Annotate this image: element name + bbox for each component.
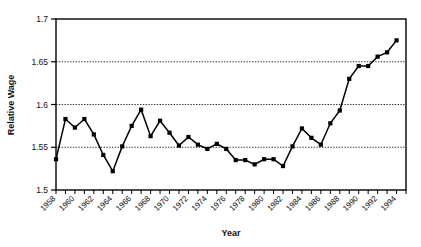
data-point-1987: [328, 121, 332, 125]
ytick-label-0: 1.5: [36, 185, 48, 195]
data-point-1985: [309, 136, 313, 140]
data-point-1990: [357, 64, 361, 68]
relative-wage-line-chart: 1.7 1.65 1.6 1.55 1.5 195819601962196419…: [0, 0, 421, 247]
data-point-1983: [290, 144, 294, 148]
x-tick-labels: 1958196019621964196619681970197219741976…: [38, 194, 398, 213]
chart-figure: 1.7 1.65 1.6 1.55 1.5 195819601962196419…: [0, 0, 421, 247]
data-point-1960: [73, 125, 77, 129]
data-point-1972: [186, 135, 190, 139]
xtick-label-1: 1960: [57, 194, 76, 213]
ytick-label-4: 1.7: [36, 14, 48, 24]
data-point-1973: [196, 143, 200, 147]
data-point-1971: [177, 143, 181, 147]
data-point-1982: [281, 164, 285, 168]
xtick-label-2: 1962: [76, 194, 95, 213]
data-point-1979: [253, 162, 257, 166]
xtick-label-10: 1978: [228, 194, 247, 213]
data-point-1989: [347, 77, 351, 81]
data-point-1958: [54, 157, 58, 161]
xtick-label-8: 1974: [190, 194, 209, 213]
data-point-1981: [271, 157, 275, 161]
data-point-1975: [215, 142, 219, 146]
y-axis-title: Relative Wage: [6, 75, 16, 136]
data-point-1959: [63, 117, 67, 121]
xtick-label-12: 1982: [265, 194, 284, 213]
data-point-1991: [366, 64, 370, 68]
ytick-label-1: 1.55: [31, 142, 48, 152]
y-tick-labels: 1.7 1.65 1.6 1.55 1.5: [31, 14, 48, 195]
data-point-1984: [300, 126, 304, 130]
data-point-1986: [319, 143, 323, 147]
data-point-1968: [148, 134, 152, 138]
ytick-label-3: 1.65: [31, 57, 48, 67]
xtick-label-6: 1970: [152, 194, 171, 213]
y-axis-ticks: [51, 19, 56, 190]
data-point-1992: [376, 55, 380, 59]
xtick-label-18: 1994: [379, 194, 398, 213]
data-point-1967: [139, 108, 143, 112]
data-point-1964: [111, 169, 115, 173]
data-point-1961: [82, 117, 86, 121]
xtick-label-7: 1972: [171, 194, 190, 213]
x-axis-title: Year: [221, 228, 241, 238]
data-point-1980: [262, 157, 266, 161]
xtick-label-5: 1968: [133, 194, 152, 213]
data-point-1966: [130, 124, 134, 128]
data-point-1970: [167, 131, 171, 135]
xtick-label-3: 1964: [95, 194, 114, 213]
data-point-1994: [394, 38, 398, 42]
data-point-1976: [224, 147, 228, 151]
xtick-label-11: 1980: [247, 194, 266, 213]
ytick-label-2: 1.6: [36, 100, 48, 110]
data-point-1965: [120, 144, 124, 148]
xtick-label-4: 1966: [114, 194, 133, 213]
xtick-label-0: 1958: [38, 194, 57, 213]
data-point-1974: [205, 147, 209, 151]
data-point-1978: [243, 158, 247, 162]
data-point-1993: [385, 50, 389, 54]
xtick-label-9: 1976: [209, 194, 228, 213]
data-point-1988: [338, 108, 342, 112]
data-point-1977: [234, 158, 238, 162]
data-point-1962: [92, 132, 96, 136]
data-point-1963: [101, 153, 105, 157]
xtick-label-14: 1986: [303, 194, 322, 213]
xtick-label-15: 1988: [322, 194, 341, 213]
data-point-1969: [158, 119, 162, 123]
xtick-label-13: 1984: [284, 194, 303, 213]
xtick-label-16: 1990: [341, 194, 360, 213]
xtick-label-17: 1992: [360, 194, 379, 213]
